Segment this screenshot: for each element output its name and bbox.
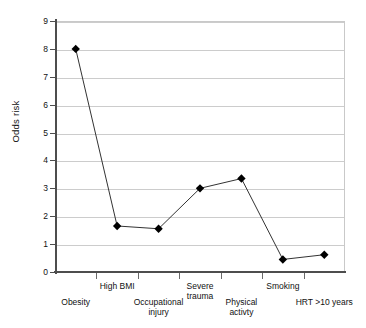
y-tick-label: 3 — [36, 184, 48, 193]
y-tick-mark — [50, 77, 55, 78]
y-tick-label: 6 — [36, 101, 48, 110]
gridline — [55, 106, 344, 107]
gridline — [55, 78, 344, 79]
x-category-label: Smoking — [245, 281, 321, 291]
x-tick-mark — [262, 273, 263, 279]
gridline — [55, 217, 344, 218]
y-tick-label: 2 — [36, 212, 48, 221]
x-tick-mark — [304, 273, 305, 279]
y-tick-label: 7 — [36, 73, 48, 82]
gridline — [55, 22, 344, 23]
y-tick-mark — [50, 272, 55, 273]
y-tick-mark — [50, 49, 55, 50]
y-axis-line — [55, 19, 57, 274]
x-tick-mark — [138, 273, 139, 279]
y-tick-label: 8 — [36, 45, 48, 54]
x-category-label: Physical activty — [203, 297, 279, 317]
y-tick-mark — [50, 188, 55, 189]
x-category-label: Obesity — [38, 297, 114, 307]
gridline — [55, 245, 344, 246]
y-tick-mark — [50, 105, 55, 106]
y-tick-mark — [50, 244, 55, 245]
y-tick-mark — [50, 21, 55, 22]
x-tick-mark — [96, 273, 97, 279]
gridline — [55, 189, 344, 190]
y-tick-mark — [50, 216, 55, 217]
x-category-label: HRT >10 years — [286, 297, 362, 307]
x-tick-mark — [221, 273, 222, 279]
gridline — [55, 50, 344, 51]
y-tick-label: 4 — [36, 156, 48, 165]
odds-risk-line-chart: Odds risk 0123456789 ObesityHigh BMIOccu… — [0, 0, 366, 328]
y-tick-label: 0 — [36, 268, 48, 277]
y-tick-mark — [50, 133, 55, 134]
plot-area — [55, 21, 345, 272]
y-tick-label: 5 — [36, 129, 48, 138]
x-category-label: High BMI — [79, 281, 155, 291]
y-tick-mark — [50, 160, 55, 161]
y-axis-title: Odds risk — [10, 77, 21, 167]
y-tick-label: 9 — [36, 17, 48, 26]
gridline — [55, 134, 344, 135]
gridline — [55, 161, 344, 162]
x-tick-mark — [179, 273, 180, 279]
y-tick-label: 1 — [36, 240, 48, 249]
x-axis-line — [54, 271, 346, 273]
